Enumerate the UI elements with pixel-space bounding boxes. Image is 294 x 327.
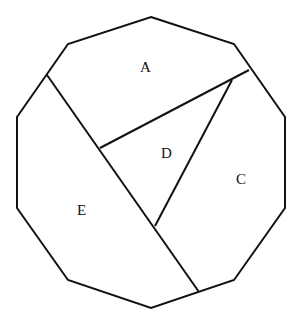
diagram-canvas: A D C E: [0, 0, 294, 327]
chord-a-d-line: [100, 70, 249, 148]
decagon-outline: [17, 17, 285, 308]
partitioned-decagon: A D C E: [0, 0, 294, 327]
region-label-c: C: [236, 171, 246, 187]
region-label-e: E: [77, 202, 86, 218]
region-label-d: D: [161, 145, 172, 161]
region-label-a: A: [140, 59, 151, 75]
